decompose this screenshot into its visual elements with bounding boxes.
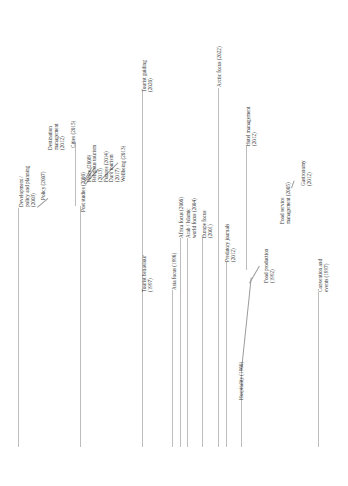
trunk-line-africa-focus [180, 238, 181, 447]
trunk-line-arctic-focus [218, 88, 219, 447]
branch-line-hotel-management [246, 146, 247, 270]
label-hospitality: Hospitality (1960) [238, 362, 244, 400]
label-development: Development / policy and planning (2003) [18, 166, 36, 207]
label-hotel-management: Hotel management (2012) [245, 107, 257, 146]
trunk-line-tourist-behaviour [142, 292, 143, 447]
label-asia-focus: Asia focus (1996) [171, 253, 177, 290]
label-wellbeing: Wellbeing (2013) [120, 146, 126, 182]
label-gastronomy: Gastronomy (2012) [300, 160, 312, 186]
label-predatory-journals: Predatory journals (2012) [224, 224, 236, 262]
trunk-line-post-studies [80, 206, 81, 447]
label-policy: Policy (2007) [40, 172, 46, 200]
label-cities: Cities (2015) [70, 121, 76, 148]
trunk-line-asia-focus [172, 290, 173, 447]
label-dark-tourism: Dark tourism (2017) [108, 154, 120, 182]
tourism-research-timeline-diagram: Development / policy and planning (2003)… [0, 0, 348, 486]
label-africa-focus: Africa focus (2006) [178, 197, 184, 238]
trunk-line-europe-focus [202, 238, 203, 447]
trunk-line-development [18, 208, 19, 447]
label-europe-focus: Europe focus (2001) [201, 210, 213, 238]
trunk-line-arab-islamic [187, 238, 188, 447]
label-destination-management: Destination management (2012) [47, 123, 65, 150]
connector-food-production-food-service [249, 266, 260, 284]
trunk-line-predatory-journals [226, 262, 227, 447]
connector-gastronomy [291, 180, 295, 188]
connector-hospitality-food-production [241, 278, 252, 371]
label-food-service: Food service management (2005) [279, 182, 291, 224]
label-religious-tourism: Religious tourism (2013) [91, 145, 103, 182]
label-convention-events: Convention and events (1997) [317, 259, 329, 292]
label-arab-islamic: Arab / Islamic world focus (2004) [185, 198, 197, 238]
branch-line-post-studies-up [75, 142, 76, 206]
trunk-line-convention-events [318, 292, 319, 447]
label-arctic-focus: Arctic focus (2022) [216, 46, 222, 87]
label-tourist-guiding: Tourist guiding (2020) [141, 60, 153, 92]
label-food-production: Food production (1992) [263, 249, 275, 283]
label-tourist-behaviour: Tourist behaviour (1997) [141, 255, 153, 292]
